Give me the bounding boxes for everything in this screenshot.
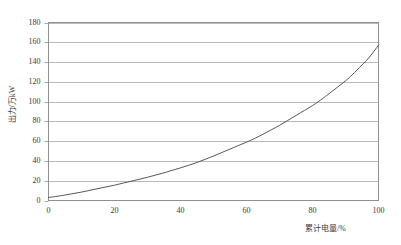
- x-tick-label: 60: [235, 206, 259, 215]
- y-tick-label: 20: [19, 176, 41, 185]
- y-tick-label: 80: [19, 116, 41, 125]
- y-tick-label: 140: [19, 57, 41, 66]
- y-tick-label: 60: [19, 136, 41, 145]
- y-tick-label: 40: [19, 156, 41, 165]
- plot-frame: [49, 23, 379, 201]
- x-tick-label: 20: [103, 206, 127, 215]
- x-axis-title: 累计电量/%: [305, 222, 346, 233]
- y-tick-marks: [45, 24, 49, 202]
- y-tick-label: 120: [19, 77, 41, 86]
- y-tick-label: 0: [19, 196, 41, 205]
- x-tick-label: 80: [301, 206, 325, 215]
- y-tick-label: 180: [19, 18, 41, 27]
- x-tick-label: 40: [169, 206, 193, 215]
- x-tick-label: 0: [37, 206, 61, 215]
- y-tick-label: 160: [19, 37, 41, 46]
- chart-figure: 020406080100120140160180 020406080100 出力…: [0, 0, 401, 245]
- x-tick-label: 100: [367, 206, 391, 215]
- y-tick-label: 100: [19, 97, 41, 106]
- y-axis-title: 出力/万kW: [6, 69, 17, 141]
